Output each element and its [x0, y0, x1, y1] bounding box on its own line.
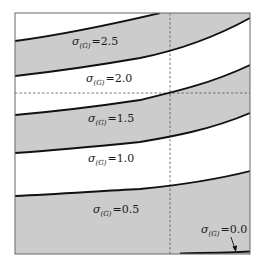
label-sigma-0.0: σ(G)=0.0 [201, 224, 247, 235]
sigma-band-diagram: σ(G)=2.5 σ(G)=2.0 σ(G)=1.5 σ(G)=1.0 σ(G)… [0, 0, 261, 270]
sigma-symbol: σ [201, 223, 209, 236]
sigma-symbol: σ [86, 72, 94, 85]
sigma-value: =0.5 [113, 203, 140, 216]
sigma-subscript: (G) [80, 42, 91, 50]
sigma-symbol: σ [88, 112, 96, 125]
sigma-value: =2.0 [106, 72, 133, 85]
sigma-value: =0.0 [221, 223, 248, 236]
sigma-value: =2.5 [92, 35, 119, 48]
sigma-symbol: σ [88, 152, 96, 165]
label-sigma-1.0: σ(G)=1.0 [88, 153, 134, 164]
sigma-subscript: (G) [101, 210, 112, 218]
sigma-subscript: (G) [94, 79, 105, 87]
sigma-subscript: (G) [209, 230, 220, 238]
sigma-symbol: σ [72, 35, 80, 48]
label-sigma-2.5: σ(G)=2.5 [72, 36, 118, 47]
sigma-value: =1.5 [108, 112, 135, 125]
sigma-subscript: (G) [96, 159, 107, 167]
sigma-subscript: (G) [96, 119, 107, 127]
sigma-value: =1.0 [108, 152, 135, 165]
label-sigma-0.5: σ(G)=0.5 [93, 204, 139, 215]
label-sigma-1.5: σ(G)=1.5 [88, 113, 134, 124]
label-sigma-2.0: σ(G)=2.0 [86, 73, 132, 84]
sigma-symbol: σ [93, 203, 101, 216]
